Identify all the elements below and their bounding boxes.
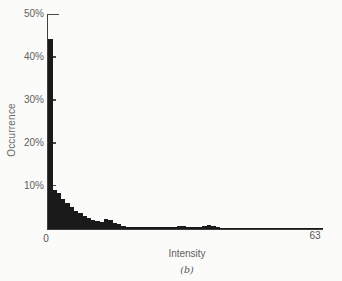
y-tick-50: [47, 14, 59, 15]
x-tick-label-63: 63: [303, 230, 327, 241]
subfigure-caption: (b): [147, 264, 227, 275]
x-axis-label: Intensity: [147, 248, 227, 259]
x-tick-label-0: 0: [40, 233, 52, 244]
histogram-figure: Occurrence 50% 40% 30% 20% 10% 0 63 Inte…: [0, 0, 342, 281]
